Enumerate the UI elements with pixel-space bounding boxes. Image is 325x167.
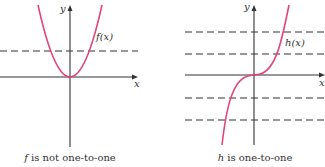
y-axis-arrow-icon [68, 5, 73, 11]
y-axis-label: y [59, 3, 66, 14]
x-axis-label: x [134, 78, 140, 89]
x-axis-label: x [319, 77, 325, 88]
diagram-canvas: y x f(x) f is not one-to-one y x h(x) h … [0, 0, 325, 167]
caption: f is not one-to-one [23, 152, 116, 163]
right-graph: y x h(x) h is one-to-one [185, 1, 325, 163]
y-axis-label: y [243, 1, 250, 12]
function-label: f(x) [95, 31, 113, 42]
function-label: h(x) [285, 37, 305, 48]
y-axis-arrow-icon [252, 5, 257, 11]
left-graph: y x f(x) f is not one-to-one [0, 3, 140, 163]
caption-text: is one-to-one [224, 152, 292, 163]
caption-text: is not one-to-one [28, 152, 116, 163]
caption: h is one-to-one [218, 152, 293, 163]
